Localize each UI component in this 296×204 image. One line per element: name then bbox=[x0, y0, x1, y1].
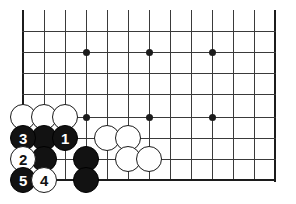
grid-line-horizontal bbox=[22, 94, 276, 95]
grid-line-horizontal bbox=[22, 73, 276, 74]
grid-line-vertical bbox=[212, 10, 213, 181]
star-point bbox=[83, 49, 90, 56]
star-point bbox=[209, 114, 216, 121]
numbered-stone-4[interactable]: 4 bbox=[31, 167, 57, 193]
move-number-label: 2 bbox=[19, 152, 27, 167]
numbered-stone-1[interactable]: 1 bbox=[52, 125, 78, 151]
star-point bbox=[209, 49, 216, 56]
move-number-label: 1 bbox=[61, 131, 69, 146]
grid-line-vertical bbox=[170, 10, 171, 181]
black-stone[interactable] bbox=[73, 167, 99, 193]
grid-line-horizontal bbox=[22, 31, 276, 32]
board-edge-horizontal bbox=[22, 179, 276, 181]
grid-line-vertical bbox=[233, 10, 234, 181]
grid-line-vertical bbox=[191, 10, 192, 181]
star-point bbox=[146, 49, 153, 56]
go-board-diagram: 31254 bbox=[0, 0, 296, 204]
move-number-label: 3 bbox=[19, 131, 27, 146]
board-edge-vertical bbox=[274, 10, 276, 182]
star-point bbox=[83, 114, 90, 121]
grid-line-vertical bbox=[254, 10, 255, 181]
white-stone[interactable] bbox=[136, 146, 162, 172]
move-number-label: 5 bbox=[19, 173, 27, 188]
grid-line-vertical bbox=[65, 10, 66, 181]
grid-line-vertical bbox=[107, 10, 108, 181]
star-point bbox=[146, 114, 153, 121]
move-number-label: 4 bbox=[40, 173, 48, 188]
